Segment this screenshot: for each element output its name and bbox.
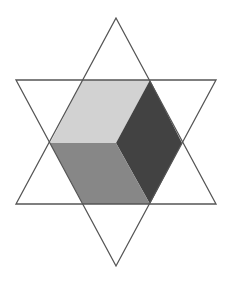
star-cube-diagram: [0, 0, 228, 285]
